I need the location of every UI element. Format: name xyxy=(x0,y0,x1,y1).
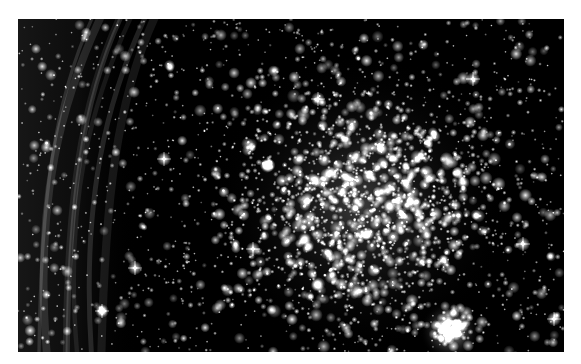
page-top-margin xyxy=(0,0,581,19)
star-cluster-photo xyxy=(18,19,564,352)
star-field-image xyxy=(18,19,564,352)
